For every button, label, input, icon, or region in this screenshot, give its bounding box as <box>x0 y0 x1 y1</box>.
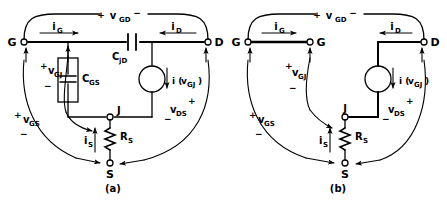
id-label-a: i <box>171 21 174 32</box>
is-sub-b: S <box>323 141 328 149</box>
vgs-sub-a: GS <box>29 120 40 128</box>
vgj-arc-head-b <box>310 110 332 128</box>
panel-b <box>245 14 427 166</box>
id-sub-a: D <box>176 27 182 35</box>
node-g-a <box>21 39 27 45</box>
rs-sub-b: S <box>363 137 368 145</box>
ig-sub-b: G <box>279 27 285 35</box>
vgs-minus-b: − <box>255 129 263 139</box>
isrc-close-a: ) <box>198 76 202 86</box>
vgj-plus-a: + <box>40 61 48 71</box>
cjd-sub-a: jD <box>118 57 127 65</box>
vds-sub-a: DS <box>176 110 187 118</box>
vds-minus-b: − <box>382 114 390 124</box>
vds-plus-b: + <box>406 96 414 106</box>
isrc-circle-b <box>365 66 391 92</box>
vgj-sub-b: GJ <box>298 73 306 81</box>
is-label-a: i <box>84 135 87 146</box>
vgd-arc-right-b <box>364 14 424 40</box>
vds-minus-a: − <box>164 114 172 124</box>
vgj-arc-stem-b <box>306 58 310 110</box>
vgd-plus-label-b: + <box>313 10 321 20</box>
terminal-d-label-a: D <box>214 36 223 49</box>
node-g-right-b <box>307 39 313 45</box>
caption-a: (a) <box>105 183 121 194</box>
vgs-minus-a: − <box>20 129 28 139</box>
ig-label-b: i <box>274 21 277 32</box>
vgs-plus-a: + <box>14 110 22 120</box>
rs-label-b: R <box>355 131 363 142</box>
isrc-circle-a <box>139 66 165 92</box>
is-sub-a: S <box>88 141 93 149</box>
ig-sub-a: G <box>57 27 63 35</box>
vgd-minus-label-b: − <box>349 8 357 18</box>
node-s-a <box>107 160 113 166</box>
terminal-g-right-label-b: G <box>316 36 325 49</box>
vgs-plus-b: + <box>249 110 257 120</box>
vgs-arrow-head-b <box>306 158 334 163</box>
id-label-b: i <box>390 21 393 32</box>
terminal-s-label-b: S <box>341 168 349 181</box>
figure-root: + v GD − i G i D G D C jD C GS i ( v GJ … <box>0 0 447 202</box>
isrc-sub-a: GJ <box>187 81 195 89</box>
vds-arrow-head-a <box>120 160 144 164</box>
rs-zigzag-a <box>105 128 115 150</box>
vgj-arc-head-a <box>66 112 92 131</box>
is-label-b: i <box>319 135 322 146</box>
vgd-sub-b: GD <box>335 16 347 24</box>
vgj-minus-b: − <box>289 83 297 93</box>
node-j-b <box>342 114 348 120</box>
node-d-a <box>205 39 211 45</box>
id-sub-b: D <box>395 27 401 35</box>
vgs-arrow-head-a <box>76 158 100 163</box>
cgs-sub-a: GS <box>89 79 100 87</box>
vgd-sub-a: GD <box>119 16 131 24</box>
vds-sub-b: DS <box>394 110 405 118</box>
caption-b: (b) <box>330 183 346 194</box>
vgd-minus-label-a: − <box>133 8 141 18</box>
vds-plus-a: + <box>188 96 196 106</box>
circuit-diagram-svg: + v GD − i G i D G D C jD C GS i ( v GJ … <box>0 0 447 202</box>
node-s-b <box>342 160 348 166</box>
terminal-d-label-b: D <box>430 36 439 49</box>
vds-arrow-head-b <box>356 160 380 164</box>
vgd-label-b: v <box>326 10 333 21</box>
vgj-sub-a: GJ <box>54 71 62 79</box>
terminal-g-label-a: G <box>7 36 16 49</box>
node-d-b <box>421 39 427 45</box>
vgj-minus-a: − <box>44 81 52 91</box>
node-g-left-b <box>245 39 251 45</box>
vgd-label-a: v <box>110 10 117 21</box>
terminal-g-left-label-b: G <box>231 36 240 49</box>
rs-sub-a: S <box>128 137 133 145</box>
isrc-sub-b: GJ <box>414 81 422 89</box>
isrc-close-b: ) <box>425 76 429 86</box>
terminal-j-label-a: J <box>116 105 121 116</box>
vgd-plus-label-a: + <box>97 10 105 20</box>
terminal-j-label-b: J <box>342 103 347 114</box>
vgs-sub-b: GS <box>264 120 275 128</box>
node-j-a <box>107 114 113 120</box>
terminal-s-label-a: S <box>106 168 114 181</box>
rs-zigzag-b <box>340 128 350 150</box>
rs-label-a: R <box>120 131 128 142</box>
ig-label-a: i <box>52 21 55 32</box>
